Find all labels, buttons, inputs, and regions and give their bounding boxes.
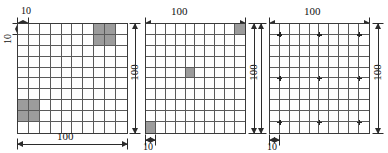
- grid-cell: [166, 122, 176, 133]
- grid-cell: [94, 111, 105, 122]
- grid-cell: [116, 78, 127, 89]
- panel-grid-block-pattern: 10 10 100: [0, 0, 130, 153]
- grid-cell: [51, 89, 62, 100]
- grid-cell: [225, 78, 235, 89]
- grid-cell: [195, 111, 205, 122]
- grid-cell: [62, 68, 73, 79]
- figure-canvas: 10 10 100 100: [0, 0, 388, 153]
- grid-cell: [105, 78, 116, 89]
- grid-cell-shaded: [105, 35, 116, 46]
- grid-cell: [156, 46, 166, 57]
- grid-cell: [215, 122, 225, 133]
- grid-cell: [195, 57, 205, 68]
- grid-cell: [29, 78, 40, 89]
- grid-cell: [51, 57, 62, 68]
- grid-cell: [235, 68, 245, 79]
- grid-cell: [29, 24, 40, 35]
- grid-cell: [18, 122, 29, 133]
- grid-cell-shaded: [18, 100, 29, 111]
- grid-cell: [176, 68, 186, 79]
- grid-cell: [176, 46, 186, 57]
- grid-cell: [62, 24, 73, 35]
- grid-cell: [156, 89, 166, 100]
- grid-cell: [156, 100, 166, 111]
- grid-cell: [146, 24, 156, 35]
- grid-cell: [18, 68, 29, 79]
- grid-cell: [40, 111, 51, 122]
- grid-cell: [94, 68, 105, 79]
- grid-cell: [166, 68, 176, 79]
- grid-cell: [51, 100, 62, 111]
- grid-cell: [18, 46, 29, 57]
- grid-cell: [40, 78, 51, 89]
- grid-cell: [235, 89, 245, 100]
- grid-cell: [205, 89, 215, 100]
- grid-cell: [29, 68, 40, 79]
- grid-single-cell-pattern[interactable]: [145, 23, 246, 134]
- grid-cell-shaded: [235, 24, 245, 35]
- grid-cell: [176, 57, 186, 68]
- grid-cell: [105, 57, 116, 68]
- grid-cell: [105, 46, 116, 57]
- grid-cells-p2: [146, 24, 245, 133]
- grid-cell: [176, 100, 186, 111]
- grid-marker-cross-icon: [317, 76, 322, 81]
- grid-cell: [235, 122, 245, 133]
- grid-cell-shaded: [94, 24, 105, 35]
- grid-cell: [72, 68, 83, 79]
- grid-cell: [215, 35, 225, 46]
- grid-cell: [195, 35, 205, 46]
- grid-cell: [156, 57, 166, 68]
- grid-cell: [225, 100, 235, 111]
- grid-cell: [186, 24, 196, 35]
- grid-cell: [116, 111, 127, 122]
- grid-cell: [51, 46, 62, 57]
- grid-cell: [62, 78, 73, 89]
- grid-cell: [83, 89, 94, 100]
- grid-cell: [40, 24, 51, 35]
- grid-cell: [116, 57, 127, 68]
- panel-grid-marker-pattern: 100 100: [256, 0, 386, 153]
- grid-cell: [215, 111, 225, 122]
- grid-cell: [166, 24, 176, 35]
- grid-cell: [156, 122, 166, 133]
- grid-cell: [83, 57, 94, 68]
- grid-cell: [176, 122, 186, 133]
- dim-label-bottom-side-p1: 100: [57, 131, 74, 142]
- grid-cell: [156, 111, 166, 122]
- dim-label-top-side-p2: 100: [171, 6, 188, 17]
- grid-marker-pattern[interactable]: [269, 23, 370, 134]
- grid-cell: [156, 78, 166, 89]
- grid-cell: [116, 24, 127, 35]
- grid-cell: [105, 100, 116, 111]
- grid-cell: [83, 24, 94, 35]
- dim-label-bottom-cell-p3: 10: [267, 142, 277, 152]
- grid-cell: [146, 35, 156, 46]
- grid-cell: [40, 100, 51, 111]
- grid-cell: [72, 78, 83, 89]
- grid-cell: [205, 111, 215, 122]
- grid-block-pattern[interactable]: [17, 23, 128, 134]
- grid-marker-cross-icon: [277, 32, 282, 37]
- grid-cell: [205, 78, 215, 89]
- grid-cell: [51, 35, 62, 46]
- grid-cell: [215, 24, 225, 35]
- grid-cell: [62, 89, 73, 100]
- grid-cell: [205, 46, 215, 57]
- grid-cell: [146, 100, 156, 111]
- grid-cell: [116, 100, 127, 111]
- grid-cell-shaded: [29, 111, 40, 122]
- grid-cell: [186, 57, 196, 68]
- grid-cell: [146, 111, 156, 122]
- grid-cell: [235, 57, 245, 68]
- grid-cell: [94, 78, 105, 89]
- grid-cell-shaded: [29, 100, 40, 111]
- grid-cell: [235, 46, 245, 57]
- grid-cell: [116, 46, 127, 57]
- grid-cell: [94, 122, 105, 133]
- grid-marker-cross-icon: [357, 32, 362, 37]
- grid-cell: [166, 111, 176, 122]
- grid-cell: [51, 68, 62, 79]
- grid-cell: [83, 111, 94, 122]
- dim-line-left-side-p2: [129, 23, 140, 134]
